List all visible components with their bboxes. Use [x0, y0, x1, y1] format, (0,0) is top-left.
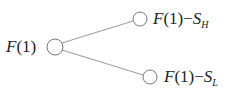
tree-diagram: F(1) F(1)−SH F(1)−SL — [0, 0, 233, 92]
root-label-fn: F — [6, 37, 16, 56]
high-label-arg: (1) — [163, 9, 183, 28]
root-label-arg: (1) — [16, 37, 36, 56]
high-label-op: − — [183, 9, 193, 28]
low-node — [143, 70, 157, 84]
root-label: F(1) — [6, 38, 36, 55]
root-node — [47, 39, 63, 55]
edge-root-to-low — [62, 50, 143, 75]
high-node — [133, 12, 147, 26]
high-label: F(1)−SH — [153, 10, 209, 30]
low-label-sub: L — [212, 77, 218, 88]
low-label: F(1)−SL — [164, 68, 218, 88]
low-label-fn: F — [164, 67, 174, 86]
high-label-sub: H — [201, 19, 208, 30]
low-label-op: − — [194, 67, 204, 86]
low-label-arg: (1) — [174, 67, 194, 86]
high-label-fn: F — [153, 9, 163, 28]
edge-root-to-high — [62, 21, 133, 43]
